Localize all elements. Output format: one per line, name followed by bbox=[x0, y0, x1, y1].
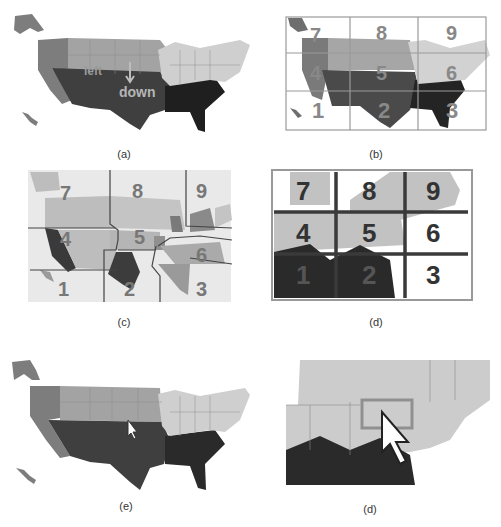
panel-a: left down (a) bbox=[0, 0, 250, 170]
panel-d: 7 8 9 4 5 6 1 2 3 (d) bbox=[250, 160, 501, 340]
grid-number-3: 3 bbox=[446, 98, 458, 124]
region-number-8: 8 bbox=[132, 180, 143, 203]
caption-a: (a) bbox=[104, 148, 144, 160]
us-map-cursor bbox=[0, 340, 250, 527]
grid-number-7: 7 bbox=[310, 24, 321, 47]
caption-c: (c) bbox=[104, 316, 144, 328]
region-number-5: 5 bbox=[134, 226, 145, 249]
grid-number-9: 9 bbox=[426, 176, 440, 207]
grid-number-1: 1 bbox=[296, 260, 310, 291]
grid-number-2: 2 bbox=[362, 260, 376, 291]
grid-number-5: 5 bbox=[362, 218, 376, 249]
grid-number-3: 3 bbox=[426, 260, 440, 291]
grid-number-4: 4 bbox=[296, 218, 310, 249]
us-map-irregular-regions bbox=[0, 160, 250, 340]
gesture-label-down: down bbox=[119, 84, 156, 100]
region-number-7: 7 bbox=[60, 182, 71, 205]
caption-f: (d) bbox=[350, 503, 390, 515]
grid-number-8: 8 bbox=[376, 22, 387, 45]
grid-number-7: 7 bbox=[296, 176, 310, 207]
grid-number-8: 8 bbox=[362, 176, 376, 207]
panel-e: (e) bbox=[0, 340, 250, 527]
panel-b: 7 8 9 4 5 6 1 2 3 (b) bbox=[250, 0, 501, 170]
region-number-9: 9 bbox=[196, 180, 207, 203]
caption-b: (b) bbox=[356, 148, 396, 160]
panel-f: (d) bbox=[250, 340, 501, 527]
grid-number-2: 2 bbox=[378, 98, 390, 124]
region-number-2: 2 bbox=[124, 278, 135, 301]
zoomed-map-cursor bbox=[250, 340, 501, 527]
caption-e: (e) bbox=[106, 500, 146, 512]
region-number-1: 1 bbox=[58, 278, 69, 301]
grid-number-1: 1 bbox=[312, 98, 324, 124]
panel-c: 7 8 9 4 5 6 1 2 3 (c) bbox=[0, 160, 250, 340]
region-number-3: 3 bbox=[196, 278, 207, 301]
grid-number-6: 6 bbox=[426, 218, 440, 249]
grid-number-4: 4 bbox=[310, 62, 321, 85]
region-number-4: 4 bbox=[60, 228, 71, 251]
caption-d: (d) bbox=[356, 316, 396, 328]
grid-number-5: 5 bbox=[376, 62, 387, 85]
grid-number-6: 6 bbox=[446, 62, 457, 85]
region-number-6: 6 bbox=[196, 244, 207, 267]
gesture-label-left: left bbox=[84, 64, 102, 78]
grid-number-9: 9 bbox=[446, 22, 457, 45]
